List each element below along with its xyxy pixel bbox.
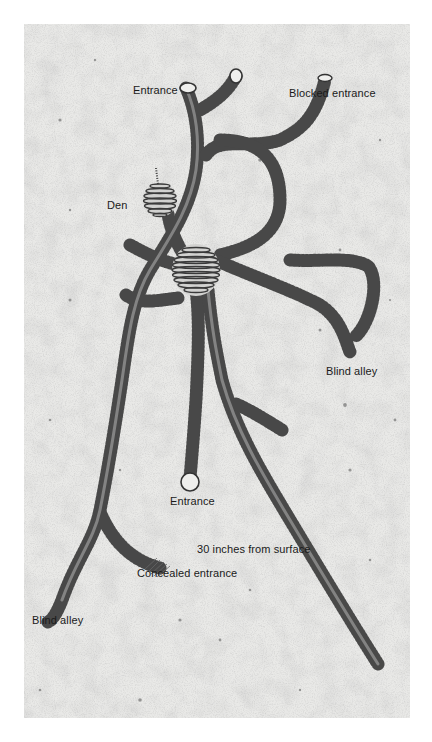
label-entrance-bottom: Entrance — [170, 495, 215, 507]
label-blind-alley-right: Blind alley — [326, 365, 377, 377]
label-concealed-entrance: Concealed entrance — [137, 567, 237, 579]
central-chamber — [172, 244, 220, 296]
label-den: Den — [107, 199, 127, 211]
label-entrance-top: Entrance — [133, 84, 178, 96]
label-depth-note: 30 inches from surface — [197, 543, 310, 555]
label-blind-alley-left: Blind alley — [32, 614, 83, 626]
label-blocked-entrance: Blocked entrance — [289, 87, 376, 99]
